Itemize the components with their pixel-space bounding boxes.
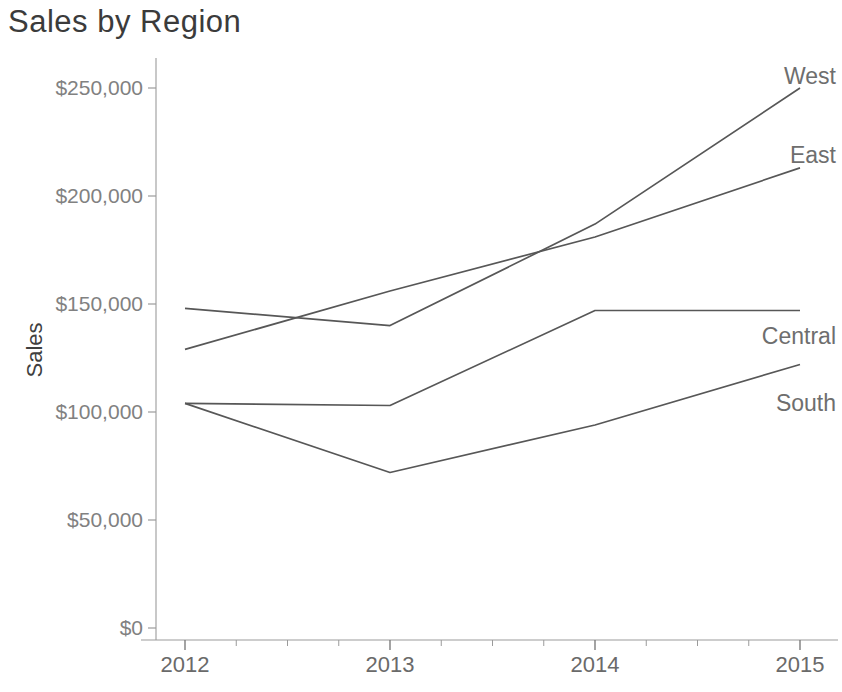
- series-line-east: [185, 168, 800, 350]
- x-tick-label: 2013: [366, 652, 415, 677]
- series-label-central: Central: [762, 323, 836, 349]
- chart-page: Sales by Region $0$50,000$100,000$150,00…: [0, 0, 842, 692]
- y-tick-label: $0: [120, 616, 143, 639]
- x-tick-label: 2015: [776, 652, 825, 677]
- y-tick-label: $150,000: [55, 292, 143, 315]
- x-tick-label: 2014: [571, 652, 620, 677]
- series-line-west: [185, 88, 800, 326]
- y-tick-label: $50,000: [67, 508, 143, 531]
- y-tick-label: $250,000: [55, 76, 143, 99]
- series-label-south: South: [776, 390, 836, 416]
- y-axis-title: Sales: [22, 322, 47, 377]
- sales-by-region-line-chart: $0$50,000$100,000$150,000$200,000$250,00…: [0, 0, 842, 692]
- x-tick-label: 2012: [161, 652, 210, 677]
- series-label-west: West: [784, 63, 837, 89]
- y-tick-label: $100,000: [55, 400, 143, 423]
- series-line-south: [185, 365, 800, 473]
- series-label-east: East: [790, 142, 837, 168]
- y-tick-label: $200,000: [55, 184, 143, 207]
